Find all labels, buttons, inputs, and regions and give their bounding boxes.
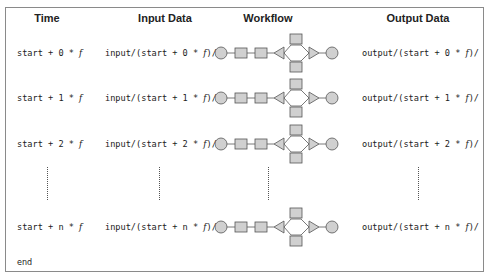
ellipsis-dotted-line [268,167,269,200]
output-data-cell: output/(start + 0 * f)/ [362,48,479,58]
input-data-cell: input/(start + 2 * f)/ [105,139,217,149]
time-cell: start + 2 * f [17,139,82,149]
time-cell: start + 1 * f [17,93,82,103]
input-data-cell: input/(start + 0 * f)/ [105,48,217,58]
header-workflow: Workflow [243,12,292,24]
workflow-diagram-icon [215,202,355,252]
header-input-data: Input Data [138,12,192,24]
header-output-data: Output Data [387,12,450,24]
workflow-diagram-icon [215,73,355,123]
output-data-cell: output/(start + n * f)/ [362,222,479,232]
output-data-cell: output/(start + 1 * f)/ [362,93,479,103]
time-cell: start + 0 * f [17,48,82,58]
end-label: end [17,258,32,267]
output-data-cell: output/(start + 2 * f)/ [362,139,479,149]
header-time: Time [34,12,59,24]
ellipsis-dotted-line [47,167,48,200]
workflow-diagram-icon [215,28,355,78]
workflow-diagram-icon [215,119,355,169]
ellipsis-dotted-line [159,167,160,200]
ellipsis-dotted-line [418,167,419,200]
input-data-cell: input/(start + 1 * f)/ [105,93,217,103]
input-data-cell: input/(start + n * f)/ [105,222,217,232]
time-cell: start + n * f [17,222,82,232]
